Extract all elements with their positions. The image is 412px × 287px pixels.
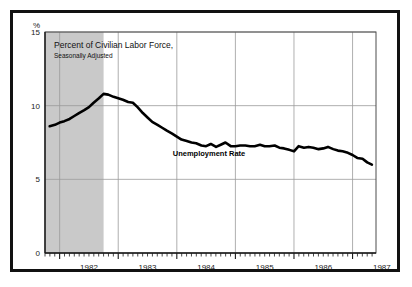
chart-title-line-2: Seasonally Adjusted <box>54 52 113 60</box>
x-tick-label-group: 198219831984198519861987 <box>80 263 391 272</box>
y-tick-label-10: 10 <box>31 102 40 111</box>
shaded-region-recession <box>45 32 104 253</box>
figure-root: 051015 198219831984198519861987 % Percen… <box>0 0 412 287</box>
x-minor-tick-group <box>45 253 372 259</box>
shaded-region-group <box>45 32 104 253</box>
y-tick-label-5: 5 <box>36 175 41 184</box>
y-axis-unit-label: % <box>33 21 40 30</box>
chart-title-line-1: Percent of Civilian Labor Force, <box>54 40 173 50</box>
y-tick-label-group: 051015 <box>31 28 40 258</box>
x-tick-label-1986: 1986 <box>314 263 332 272</box>
x-tick-label-1983: 1983 <box>139 263 157 272</box>
y-tick-label-0: 0 <box>36 249 41 258</box>
series-annotation-label: Unemployment Rate <box>173 149 246 158</box>
x-tick-label-1985: 1985 <box>256 263 274 272</box>
x-tick-label-1982: 1982 <box>80 263 98 272</box>
x-tick-label-1984: 1984 <box>197 263 215 272</box>
unemployment-rate-chart: 051015 198219831984198519861987 % Percen… <box>0 0 412 287</box>
x-tick-label-1987: 1987 <box>373 263 391 272</box>
